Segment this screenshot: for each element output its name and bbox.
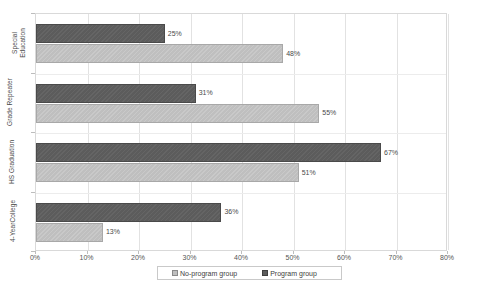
x-axis-tick-label: 50% [273,254,313,261]
gridline [448,14,449,250]
bar [36,44,283,63]
bar-value-label: 25% [168,30,182,37]
bar-value-label: 48% [286,50,300,57]
bar-value-label: 13% [106,228,120,235]
bar-value-label: 51% [302,169,316,176]
y-axis-tick [31,73,35,74]
x-axis-tick-label: 10% [67,254,107,261]
category-separator [36,133,446,134]
bar-value-label: 31% [199,89,213,96]
bar [36,24,165,43]
y-axis-category-label: 4-YearCollege [0,192,34,252]
y-axis-category-text: Grade Repeater [6,78,14,126]
x-axis-tick-label: 60% [324,254,364,261]
legend-entry-no-program-group: No-program group [172,270,237,277]
category-separator [36,74,446,75]
y-axis-tick [31,13,35,14]
y-axis-tick [31,132,35,133]
legend-entry-program-group: Program group [262,270,317,277]
x-axis-tick-label: 0% [15,254,55,261]
x-axis-tick-label: 80% [427,254,467,261]
bar-value-label: 67% [384,149,398,156]
bar [36,163,299,182]
bar [36,143,381,162]
y-axis-category-text: 4-YearCollege [9,200,17,242]
legend-label-no-program-group: No-program group [180,270,237,277]
x-axis-tick-label: 40% [221,254,261,261]
plot-area: 25%48%31%55%67%51%36%13% [35,13,447,251]
category-separator [36,193,446,194]
bar-value-label: 55% [322,109,336,116]
legend-swatch-icon-light [172,270,178,276]
y-axis-tick [31,192,35,193]
x-axis-tick-label: 20% [118,254,158,261]
y-axis-category-label: Grade Repeater [0,73,34,133]
gridline [397,14,398,250]
bar-value-label: 36% [224,208,238,215]
bar [36,223,103,242]
bar [36,203,221,222]
chart-legend: No-program group Program group [157,266,342,280]
x-axis-tick-label: 70% [376,254,416,261]
y-axis-category-label: SpecialEducation [0,13,34,73]
y-axis-category-text: HS Graduation [8,140,16,184]
bar [36,104,319,123]
y-axis-category-label: HS Graduation [0,132,34,192]
gridline [345,14,346,250]
legend-swatch-icon-dark [262,270,268,276]
bar-chart: 25%48%31%55%67%51%36%13% SpecialEducatio… [0,0,477,292]
x-axis-tick-label: 30% [170,254,210,261]
bar [36,84,196,103]
y-axis-category-text: SpecialEducation [11,28,27,58]
legend-label-program-group: Program group [270,270,317,277]
